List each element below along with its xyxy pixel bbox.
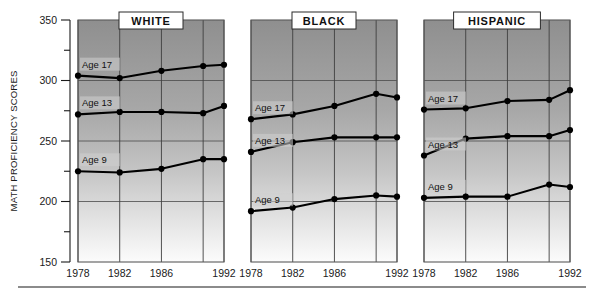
xtick-label-1982: 1982 — [454, 267, 478, 279]
xtick-label-1992: 1992 — [385, 267, 409, 279]
data-point — [200, 63, 206, 69]
data-point — [158, 166, 164, 172]
data-point — [394, 94, 400, 100]
data-point — [421, 106, 427, 112]
xtick-label-1982: 1982 — [281, 267, 305, 279]
data-point — [504, 194, 510, 200]
data-point — [567, 127, 573, 133]
data-point — [117, 109, 123, 115]
series-label-age-17: Age 17 — [428, 93, 458, 104]
data-point — [221, 156, 227, 162]
data-point — [200, 156, 206, 162]
data-point — [504, 98, 510, 104]
data-point — [221, 103, 227, 109]
series-label-age-13: Age 13 — [82, 97, 112, 108]
panel-title-hispanic: HISPANIC — [468, 15, 526, 27]
data-point — [463, 105, 469, 111]
data-point — [221, 62, 227, 68]
chart-canvas: 350300250200150MATH PROFICIENCY SCORESAg… — [0, 0, 604, 301]
xtick-label-1978: 1978 — [66, 267, 90, 279]
xtick-label-1992: 1992 — [212, 267, 236, 279]
data-point — [373, 134, 379, 140]
panel-black: Age 17Age 13Age 91978198219861992BLACK — [239, 12, 409, 279]
data-point — [546, 97, 552, 103]
data-point — [75, 73, 81, 79]
data-point — [331, 134, 337, 140]
data-point — [331, 103, 337, 109]
series-label-age-17: Age 17 — [255, 102, 285, 113]
series-label-age-9: Age 9 — [428, 181, 453, 192]
data-point — [567, 184, 573, 190]
math-proficiency-chart: 350300250200150MATH PROFICIENCY SCORESAg… — [0, 0, 604, 301]
data-point — [421, 195, 427, 201]
ytick-label-150: 150 — [39, 256, 57, 268]
data-point — [331, 196, 337, 202]
panel-hispanic: Age 17Age 13Age 91978198219861992HISPANI… — [412, 12, 582, 279]
data-point — [421, 152, 427, 158]
panel-title-white: WHITE — [131, 15, 170, 27]
series-label-age-13: Age 13 — [428, 139, 458, 150]
panel-title-black: BLACK — [303, 15, 346, 27]
data-point — [463, 194, 469, 200]
series-label-age-13: Age 13 — [255, 135, 285, 146]
xtick-label-1986: 1986 — [496, 267, 520, 279]
xtick-label-1992: 1992 — [558, 267, 582, 279]
data-point — [373, 91, 379, 97]
data-point — [394, 134, 400, 140]
data-point — [117, 169, 123, 175]
series-label-age-9: Age 9 — [255, 194, 280, 205]
ytick-label-250: 250 — [39, 135, 57, 147]
data-point — [373, 192, 379, 198]
y-axis-title: MATH PROFICIENCY SCORES — [8, 71, 19, 212]
data-point — [158, 109, 164, 115]
ytick-label-300: 300 — [39, 74, 57, 86]
data-point — [248, 208, 254, 214]
data-point — [546, 133, 552, 139]
ytick-label-350: 350 — [39, 14, 57, 26]
data-point — [546, 181, 552, 187]
data-point — [248, 116, 254, 122]
series-label-age-9: Age 9 — [82, 154, 107, 165]
data-point — [75, 111, 81, 117]
data-point — [394, 194, 400, 200]
xtick-label-1978: 1978 — [412, 267, 436, 279]
panel-white: Age 17Age 13Age 91978198219861992WHITE — [66, 12, 236, 279]
data-point — [117, 75, 123, 81]
xtick-label-1986: 1986 — [323, 267, 347, 279]
chart-generated-layer: 350300250200150MATH PROFICIENCY SCORESAg… — [8, 12, 586, 287]
data-point — [567, 87, 573, 93]
data-point — [158, 68, 164, 74]
xtick-label-1978: 1978 — [239, 267, 263, 279]
ytick-label-200: 200 — [39, 195, 57, 207]
data-point — [75, 168, 81, 174]
xtick-label-1982: 1982 — [108, 267, 132, 279]
data-point — [200, 110, 206, 116]
data-point — [248, 149, 254, 155]
data-point — [504, 133, 510, 139]
xtick-label-1986: 1986 — [150, 267, 174, 279]
series-label-age-17: Age 17 — [82, 59, 112, 70]
